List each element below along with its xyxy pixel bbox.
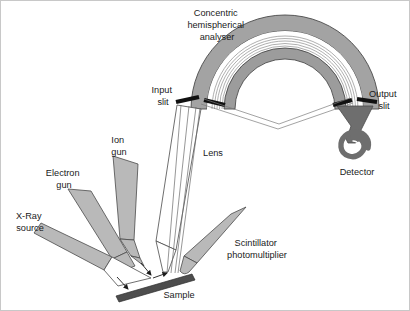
hemispherical-analyser-inner-shell xyxy=(224,48,346,109)
ion-gun-label: Ion gun xyxy=(111,135,126,157)
sample-label: Sample xyxy=(163,290,194,300)
scintillator-photomultiplier-label: Scintillator photomultiplier xyxy=(227,238,287,260)
diagram-canvas: Concentric hemispherical analyser Input … xyxy=(1,1,410,311)
lens-label: Lens xyxy=(203,148,223,158)
emitted-electron-arrow xyxy=(153,273,167,278)
spectrometer-diagram: Concentric hemispherical analyser Input … xyxy=(0,0,410,311)
x-ray-source-label: X-Ray source xyxy=(16,211,44,233)
electron-gun-label: Electron gun xyxy=(46,168,82,190)
channeltron-detector xyxy=(337,106,373,157)
detector-label: Detector xyxy=(340,167,375,177)
input-slit-label: Input slit xyxy=(152,85,175,107)
